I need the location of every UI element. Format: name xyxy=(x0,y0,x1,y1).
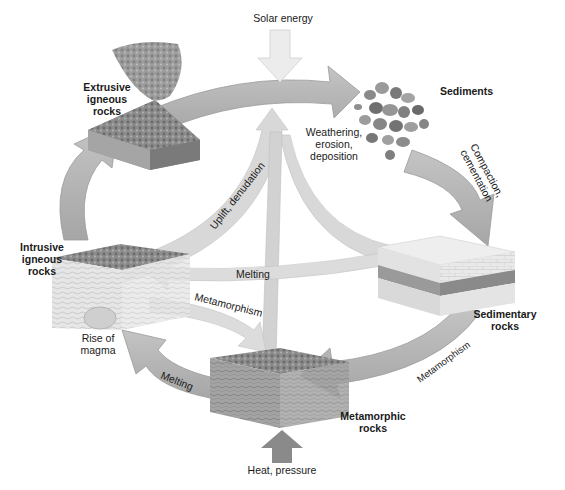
heat-pressure-arrow xyxy=(261,430,303,463)
magma-chamber xyxy=(84,307,116,329)
sediments-illustration xyxy=(354,82,429,160)
label-intrusive-3: rocks xyxy=(28,265,56,277)
label-heat-pressure: Heat, pressure xyxy=(248,464,317,476)
label-extrusive-3: rocks xyxy=(93,105,121,117)
arrow-to-sediments xyxy=(150,66,360,132)
label-melting-center: Melting xyxy=(236,268,270,280)
label-sediments: Sediments xyxy=(440,85,493,97)
label-weathering-3: deposition xyxy=(310,150,358,162)
solar-energy-arrow xyxy=(258,30,302,82)
metamorphic-rocks-illustration xyxy=(210,348,349,428)
label-extrusive-2: igneous xyxy=(87,93,127,105)
label-metamorphic-1: Metamorphic xyxy=(340,410,406,422)
sedimentary-rocks-illustration xyxy=(378,236,515,316)
label-sedimentary-2: rocks xyxy=(491,320,519,332)
label-weathering-1: Weathering, xyxy=(306,126,362,138)
rock-cycle-diagram: Solar energy Extrusive igneous rocks Sed… xyxy=(0,0,565,490)
label-intrusive-1: Intrusive xyxy=(20,241,64,253)
label-sedimentary-1: Sedimentary xyxy=(473,308,536,320)
intrusive-igneous-illustration xyxy=(52,244,190,330)
label-solar-energy: Solar energy xyxy=(253,12,313,24)
label-metamorphic-2: rocks xyxy=(359,422,387,434)
label-extrusive-1: Extrusive xyxy=(83,81,130,93)
label-intrusive-2: igneous xyxy=(22,253,62,265)
label-rise-of-magma-1: Rise of xyxy=(82,332,115,344)
arrow-to-intrusive xyxy=(122,330,214,398)
label-weathering-2: erosion, xyxy=(315,138,352,150)
label-rise-of-magma-2: magma xyxy=(80,344,115,356)
